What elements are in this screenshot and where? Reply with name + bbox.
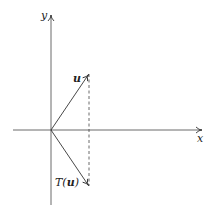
vector-u-label: u bbox=[73, 72, 81, 85]
x-axis-label: x bbox=[197, 132, 204, 145]
y-axis-label: y bbox=[40, 9, 48, 22]
vector-u bbox=[51, 75, 89, 131]
vector-t-u-label: T(u) bbox=[55, 176, 79, 189]
t-u-label-prefix: T( bbox=[55, 176, 67, 189]
diagram-canvas: y x u T(u) bbox=[0, 0, 215, 215]
t-u-label-suffix: ) bbox=[74, 176, 79, 189]
t-u-label-arg: u bbox=[67, 176, 75, 189]
